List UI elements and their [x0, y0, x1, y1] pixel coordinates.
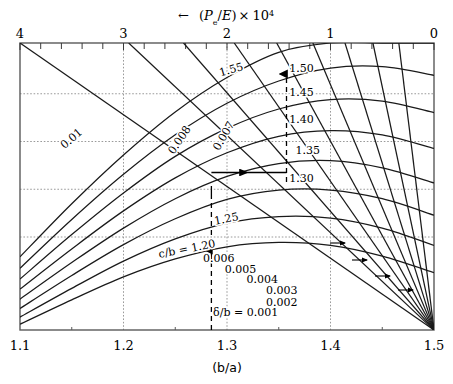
curve-label-c-b-1.25: 1.25 [213, 210, 240, 227]
top-axis-ticks [20, 43, 434, 50]
curve-label-c-b-1.50: 1.50 [289, 62, 314, 75]
svg-text:1: 1 [326, 26, 334, 41]
svg-text:1.4: 1.4 [320, 338, 341, 353]
svg-text:4: 4 [16, 26, 24, 41]
curve-label--b-0.01: 0.01 [58, 126, 85, 152]
svg-text:0: 0 [430, 26, 438, 41]
curve-label--b-0.001: δ/b = 0.001 [213, 306, 278, 319]
curve-label-c-b-1.40: 1.40 [289, 113, 314, 126]
svg-text:1.5: 1.5 [424, 338, 445, 353]
bottom-tick-labels: 1.1 1.2 1.3 1.4 1.5 [10, 338, 445, 353]
curve-label-c-b-1.55: 1.55 [218, 60, 245, 79]
top-tick-labels: 4 3 2 1 0 [16, 26, 438, 41]
svg-text:1.1: 1.1 [10, 338, 31, 353]
curve-label-c-b-1.30: 1.30 [289, 172, 314, 185]
curve-label-c-b-1.35: 1.35 [295, 144, 320, 157]
svg-text:3: 3 [119, 26, 127, 41]
curve-label--b-0.008: 0.008 [165, 123, 193, 156]
curve-group [20, 42, 434, 330]
top-axis-title: ← (Pe/E)×104 [178, 8, 274, 27]
svg-text:2: 2 [223, 26, 231, 41]
curve--b-0.003 [345, 43, 434, 330]
curve--b-0.01 [20, 43, 434, 330]
nomograph-figure: ← (Pe/E)×104 4 3 2 1 0 1.1 1.2 1.3 1.4 1… [0, 0, 453, 384]
chart-canvas: ← (Pe/E)×104 4 3 2 1 0 1.1 1.2 1.3 1.4 1… [0, 0, 453, 384]
svg-text:1.2: 1.2 [113, 338, 134, 353]
svg-text:1.3: 1.3 [217, 338, 238, 353]
curve-label-c-b-1.45: 1.45 [289, 86, 314, 99]
bottom-axis-title: (b/a) [212, 360, 242, 375]
